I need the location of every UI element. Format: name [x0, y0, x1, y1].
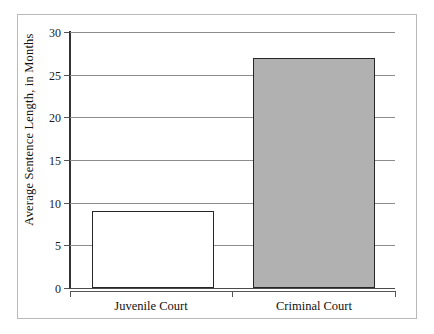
- bar-juvenile-court: [92, 211, 214, 288]
- y-tick-label: 30: [33, 27, 61, 39]
- gridline-0: [70, 288, 395, 289]
- plot-area: [70, 32, 395, 288]
- x-category-label-juvenile-court: Juvenile Court: [70, 299, 232, 314]
- y-tick-label: 20: [33, 112, 61, 124]
- y-tick-label: 5: [33, 240, 61, 252]
- y-tick-label: 10: [33, 198, 61, 210]
- x-tick-mark: [395, 291, 396, 297]
- x-tick-mark: [70, 291, 71, 297]
- gridline-30: [70, 32, 395, 33]
- y-tick-label: 15: [33, 155, 61, 167]
- y-tick-label: 0: [33, 283, 61, 295]
- y-axis-title: Average Sentence Length, in Months: [22, 15, 37, 245]
- x-axis-line: [70, 291, 396, 292]
- x-tick-mark: [232, 291, 233, 297]
- x-category-label-criminal-court: Criminal Court: [233, 299, 395, 314]
- bar-criminal-court: [253, 58, 375, 288]
- y-tick-label: 25: [33, 70, 61, 82]
